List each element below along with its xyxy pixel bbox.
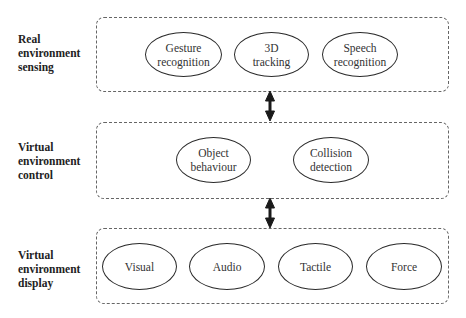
bidirectional-arrow-icon bbox=[266, 91, 275, 121]
bidirectional-arrow-icon bbox=[266, 198, 275, 228]
connector-arrows bbox=[0, 0, 466, 318]
